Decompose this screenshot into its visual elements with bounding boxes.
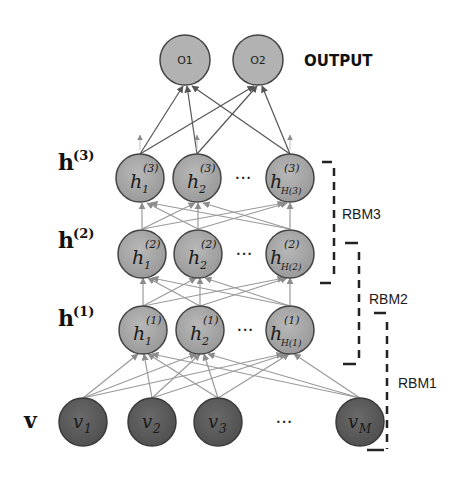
output-label: OUTPUT — [304, 52, 373, 70]
output-node-o2: O2 — [233, 35, 283, 85]
node-v-3: v 3 — [194, 398, 242, 446]
node-h3-2: h (3) 2 — [173, 154, 221, 202]
svg-text:H(1): H(1) — [280, 338, 302, 348]
svg-text:v: v — [348, 411, 358, 432]
edges-v-h1 — [83, 354, 360, 398]
svg-text:(1): (1) — [73, 304, 94, 319]
svg-text:v: v — [208, 411, 218, 432]
svg-text:v: v — [73, 411, 83, 432]
svg-text:(3): (3) — [284, 162, 300, 175]
node-v-M: v M — [336, 398, 384, 446]
svg-text:1: 1 — [142, 183, 149, 196]
svg-text:h: h — [132, 246, 144, 268]
edges-h3-output — [140, 86, 290, 154]
svg-text:2: 2 — [199, 259, 207, 272]
node-h3-H: h (3) H(3) — [266, 154, 314, 202]
rbm3-bracket — [320, 162, 334, 283]
rbm2-label: RBM2 — [369, 291, 408, 307]
svg-text:M: M — [358, 422, 372, 436]
svg-text:(3): (3) — [73, 148, 94, 163]
output-node-o1-label: O1 — [177, 54, 193, 67]
svg-text:h: h — [58, 227, 74, 253]
svg-text:h: h — [58, 149, 74, 175]
rbm1-label: RBM1 — [398, 375, 437, 391]
svg-text:v: v — [23, 407, 38, 433]
svg-text:1: 1 — [84, 422, 92, 436]
svg-text:2: 2 — [198, 183, 206, 196]
svg-text:1: 1 — [145, 335, 152, 348]
svg-text:v: v — [142, 411, 152, 432]
node-h1-1: h (1) 1 — [119, 306, 167, 354]
ellipsis-h3: ··· — [234, 167, 251, 188]
ellipsis-v: ··· — [275, 411, 292, 432]
svg-text:h: h — [130, 170, 142, 192]
hidden-layer-3: h (3) 1 h (3) 2 ··· h (3) H(3) — [116, 154, 314, 202]
edges-h1-h2 — [143, 278, 290, 306]
svg-text:h: h — [58, 305, 74, 331]
svg-text:(1): (1) — [203, 314, 219, 327]
svg-text:h: h — [190, 322, 202, 344]
visible-layer: v 1 v 2 v 3 ··· v M — [59, 398, 384, 446]
svg-text:(2): (2) — [201, 238, 217, 251]
svg-text:2: 2 — [152, 422, 161, 436]
svg-text:2: 2 — [201, 335, 209, 348]
svg-text:(1): (1) — [146, 314, 162, 327]
svg-text:h: h — [188, 246, 200, 268]
svg-text:h: h — [187, 170, 199, 192]
rbm3-label: RBM3 — [342, 206, 381, 222]
node-v-2: v 2 — [128, 398, 176, 446]
layer-label-v: v — [23, 407, 38, 433]
node-h1-H: h (1) H(1) — [266, 306, 314, 354]
node-h3-1: h (3) 1 — [116, 154, 164, 202]
hidden-layer-2: h (2) 1 h (2) 2 ··· h (2) H(2) — [118, 230, 314, 278]
node-h1-2: h (1) 2 — [176, 306, 224, 354]
layer-label-h1: h (1) — [58, 304, 94, 331]
svg-text:(3): (3) — [200, 162, 216, 175]
svg-text:(2): (2) — [145, 238, 161, 251]
svg-text:H(2): H(2) — [280, 262, 302, 272]
svg-text:(2): (2) — [73, 226, 94, 241]
svg-text:(2): (2) — [284, 238, 300, 251]
rbm2-bracket — [343, 243, 359, 364]
svg-text:(1): (1) — [284, 314, 300, 327]
svg-text:H(3): H(3) — [280, 186, 302, 196]
edges-h2-h3 — [142, 203, 290, 229]
ellipsis-h1: ··· — [236, 319, 253, 340]
dbn-diagram: O1 O2 OUTPUT h (3) h (2) h (1) v h (3) 1… — [0, 0, 467, 478]
node-h2-2: h (2) 2 — [174, 230, 222, 278]
h3-up-arrows — [140, 135, 290, 150]
hidden-layer-1: h (1) 1 h (1) 2 ··· h (1) H(1) — [119, 306, 314, 354]
ellipsis-h2: ··· — [235, 243, 252, 264]
node-h2-1: h (2) 1 — [118, 230, 166, 278]
layer-label-h2: h (2) — [58, 226, 94, 253]
svg-text:h: h — [133, 322, 145, 344]
output-node-o1: O1 — [160, 35, 210, 85]
node-v-1: v 1 — [59, 398, 107, 446]
output-node-o2-label: O2 — [250, 54, 266, 67]
svg-text:1: 1 — [144, 259, 151, 272]
node-h2-H: h (2) H(2) — [266, 230, 314, 278]
svg-text:(3): (3) — [143, 162, 159, 175]
svg-text:3: 3 — [219, 422, 227, 436]
layer-label-h3: h (3) — [58, 148, 94, 175]
